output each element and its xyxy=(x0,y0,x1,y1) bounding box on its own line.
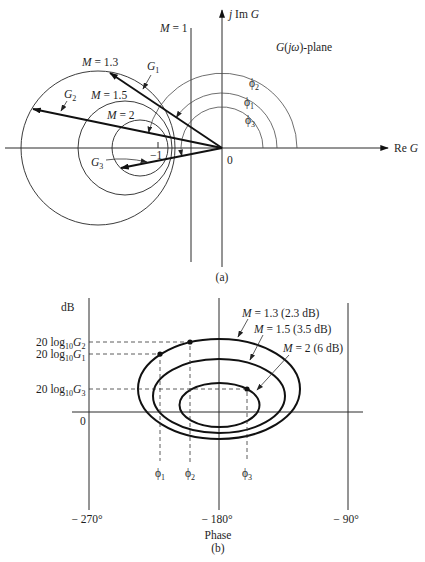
phi3-mark-label: ϕ3 xyxy=(242,467,252,482)
y-label-g1: 20 log10G1 xyxy=(36,348,85,363)
g1-leader-arrow xyxy=(143,75,151,89)
x-tick-minus-90: − 90° xyxy=(333,513,359,525)
point-g2 xyxy=(187,339,192,344)
contour-2-leader xyxy=(257,355,289,390)
phi3-arc-label: ϕ3 xyxy=(245,114,255,129)
phi2-arc-label: ϕ2 xyxy=(249,77,259,92)
phi1-arc-label: ϕ1 xyxy=(244,96,254,111)
vector-g1-label: G1 xyxy=(147,60,159,75)
zero-db-label: 0 xyxy=(80,415,86,427)
guide-g3-phi3 xyxy=(89,389,247,461)
panel-b-nichols-chart: dB 20 log10G2 20 log10G1 20 log10G3 0 M … xyxy=(36,298,363,555)
vector-g3-label: G3 xyxy=(91,156,103,171)
m-circle-2-label: M = 2 xyxy=(106,109,135,121)
g3-leader-arrow xyxy=(106,159,147,162)
contour-2-label: M = 2 (6 dB) xyxy=(282,342,343,355)
x-tick-minus-270: − 270° xyxy=(71,513,103,525)
x-axis-label: Phase xyxy=(205,529,232,541)
minus-one-label: −1 xyxy=(150,149,162,161)
imaginary-axis-label: j Im G xyxy=(227,8,260,21)
plane-label: G(jω)-plane xyxy=(276,41,332,54)
m1-line-label: M = 1 xyxy=(159,22,188,34)
m-circle-1-3-label: M = 1.3 xyxy=(81,56,118,68)
origin-label: 0 xyxy=(227,154,233,166)
contour-1-5-leader xyxy=(250,335,263,360)
point-g3 xyxy=(244,386,249,391)
contour-1-3-label: M = 1.3 (2.3 dB) xyxy=(241,307,320,320)
panel-b-caption: (b) xyxy=(211,542,225,555)
contour-1-3-leader xyxy=(238,319,248,337)
vector-g2-label: G2 xyxy=(64,88,76,103)
phi2-mark-label: ϕ2 xyxy=(185,467,195,482)
panel-a-caption: (a) xyxy=(216,271,229,284)
real-axis-label: Re G xyxy=(394,142,419,154)
point-g1 xyxy=(157,351,162,356)
g2-leader-arrow xyxy=(61,101,67,111)
x-tick-minus-180: − 180° xyxy=(201,513,233,525)
guide-g2-phi2 xyxy=(89,342,190,463)
panel-a-nyquist-plane: M = 1 j Im G G(jω)-plane M = 1.3 M = 1.5… xyxy=(5,8,419,284)
db-axis-label: dB xyxy=(61,301,75,313)
y-label-g3: 20 log10G3 xyxy=(36,383,85,398)
phi1-mark-label: ϕ1 xyxy=(155,467,165,482)
m-circle-1-5-label: M = 1.5 xyxy=(90,89,127,101)
guide-g1-phi1 xyxy=(89,354,160,461)
contour-1-5-label: M = 1.5 (3.5 dB) xyxy=(253,323,332,336)
figure: M = 1 j Im G G(jω)-plane M = 1.3 M = 1.5… xyxy=(0,0,425,562)
